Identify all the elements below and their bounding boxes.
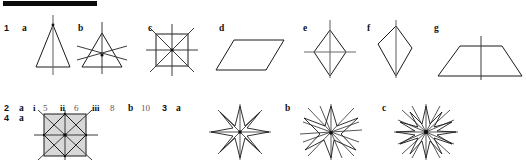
figure-1f-kite [372, 14, 420, 76]
figure-1a-isosceles-triangle [30, 14, 76, 76]
question-1-item-f-letter: f [367, 23, 370, 33]
figure-1b-equilateral-triangle [74, 14, 130, 76]
question-3-item-b-letter: b [285, 103, 290, 113]
section-rule [3, 1, 97, 6]
question-3-item-c-letter: c [382, 103, 386, 113]
question-2-part-b-answer: 10 [141, 103, 150, 113]
question-3-item-a-letter: a [176, 103, 181, 113]
question-4-number: 4 [4, 113, 9, 123]
question-3-number: 3 [162, 103, 167, 113]
figure-1c-square [144, 14, 200, 76]
figure-1e-rhombus [302, 14, 358, 76]
question-2-a-iii-answer: 8 [110, 103, 115, 113]
figure-1d-parallelogram [214, 14, 288, 76]
question-1-number: 1 [4, 23, 9, 33]
figure-3a-eight-point-star [205, 104, 275, 160]
question-2-number: 2 [4, 103, 9, 113]
figure-3c-twelve-point-star [388, 104, 464, 160]
question-1-item-a-letter: a [22, 23, 27, 33]
figure-4a-shaded-square [32, 110, 102, 160]
question-2-part-a-letter: a [19, 103, 24, 113]
question-2-part-b-letter: b [128, 103, 133, 113]
figure-1g-trapezium [430, 14, 526, 76]
page-canvas: 1 a b c d [0, 0, 526, 160]
figure-3b-seven-point-star [296, 104, 366, 160]
question-4-item-a-letter: a [19, 113, 24, 123]
